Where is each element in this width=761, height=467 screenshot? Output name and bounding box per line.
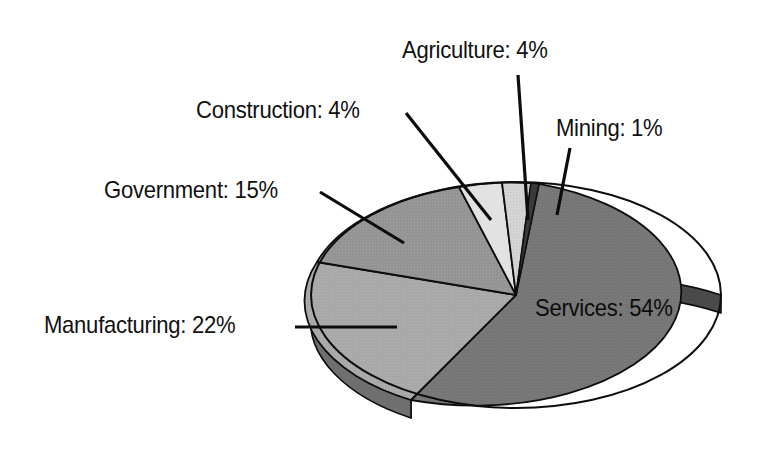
pie-chart: Agriculture: 4% Construction: 4% Governm… (0, 0, 761, 467)
label-construction: Construction: 4% (196, 98, 360, 122)
label-services: Services: 54% (535, 296, 673, 320)
label-government: Government: 15% (104, 178, 278, 202)
label-manufacturing: Manufacturing: 22% (44, 313, 235, 337)
label-mining: Mining: 1% (556, 116, 662, 140)
label-agriculture: Agriculture: 4% (402, 38, 548, 62)
pie-chart-graphic (0, 0, 761, 467)
